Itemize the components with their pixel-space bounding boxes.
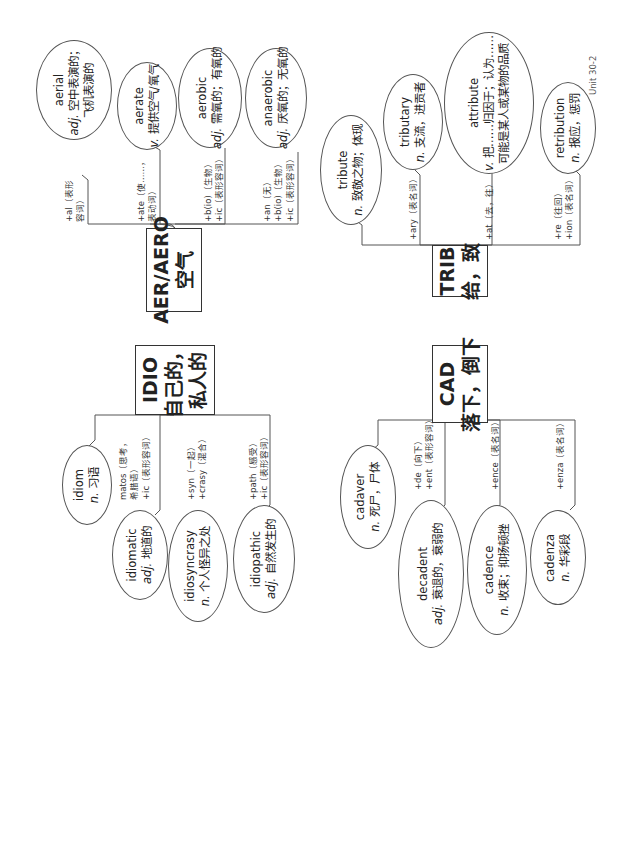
word-definition: 自然发生的 [264, 519, 278, 574]
word-ellipse-aerate: aerate v. 提供空气/氧气 [117, 62, 177, 150]
word-definition: 报应，惩罚 [568, 93, 582, 148]
affix-decadent: +de（向下） +ent（表形容词） [413, 415, 436, 490]
word-definition-line2: 飞机表演的 [81, 45, 96, 136]
word-ellipse-anaerobic: anaerobic adj. 厌氧的；无氧的 [245, 48, 307, 148]
word-term: cadaver [353, 462, 368, 532]
affix-idiosyncrasy: +syn（一起） +crasy（混合） [186, 434, 209, 500]
root-box-aer: AER/AERO 空气 [146, 228, 202, 312]
word-term: cadenza [543, 533, 558, 581]
word-definition-line2: 可能是某人或某物的品质 [496, 35, 511, 171]
part-of-speech: adj. [140, 563, 154, 584]
part-of-speech: adj. [264, 578, 278, 599]
word-ellipse-idiosyncrasy: idiosyncrasy n. 个人怪异之处 [168, 510, 228, 622]
affix-idiopathic: +path（感受） +ic（表形容词） [248, 432, 271, 500]
word-definition: 需氧的；有氧的 [210, 47, 224, 124]
word-definition: 厌氧的；无氧的 [276, 47, 290, 124]
root-box-idio: IDIO 自己的， 私人的 [135, 345, 215, 415]
part-of-speech: adj. [67, 114, 81, 135]
word-ellipse-aerobic: aerobic adj. 需氧的；有氧的 [178, 48, 242, 148]
word-ellipse-tributary: tributary n. 支流，进贡者 [383, 74, 443, 170]
root-meaning: 自己的， [163, 342, 187, 418]
part-of-speech: adj. [210, 128, 224, 149]
affix-anaerobic: +an（无） +b(io)（生物） +ic（表形容词） [262, 154, 296, 222]
word-term: idiopathic [249, 519, 264, 599]
word-ellipse-cadenza: cadenza n. 华彩段 [530, 510, 586, 605]
word-term: idiosyncrasy [183, 526, 198, 607]
word-definition: 空中表演的； [67, 45, 81, 111]
part-of-speech: v. [482, 162, 496, 172]
affix-cadenza: +enza（表名词） [555, 418, 566, 490]
root-meaning: 给，致 [460, 243, 484, 300]
word-ellipse-idiopathic: idiopathic adj. 自然发生的 [233, 505, 295, 613]
word-term: idiomatic [125, 526, 140, 584]
word-ellipse-retribution: retribution n. 报应，惩罚 [540, 82, 596, 174]
word-definition: 华彩段 [558, 534, 572, 567]
part-of-speech: adj. [431, 604, 445, 625]
root-meaning-line2: 私人的 [187, 342, 211, 418]
word-definition: 个人怪异之处 [198, 526, 212, 592]
word-term: retribution [553, 93, 568, 163]
word-term: tribute [336, 124, 351, 216]
part-of-speech: n. [558, 570, 572, 581]
word-term: decadent [416, 523, 431, 625]
word-definition: 地道的 [140, 526, 154, 559]
word-ellipse-decadent: decadent adj. 衰退的，衰弱的 [398, 500, 464, 648]
root-title: AER/AERO [150, 216, 174, 324]
root-box-cad: CAD 落下，倒下 [432, 345, 488, 423]
part-of-speech: n. [351, 205, 365, 216]
affix-attribute: +at（去，往） [484, 179, 495, 240]
word-term: cadence [482, 524, 497, 616]
part-of-speech: n. [87, 492, 101, 503]
word-term: aerobic [195, 47, 210, 149]
word-term: anaerobic [261, 47, 276, 149]
affix-aerate: +ate（使……， 表动词） [136, 157, 159, 222]
root-meaning: 空气 [174, 216, 198, 324]
unit-label: Unit 30-2 [588, 56, 598, 95]
word-definition: 提供空气/氧气 [147, 64, 161, 134]
word-term: aerial [52, 45, 67, 136]
word-definition: 习语 [87, 467, 101, 489]
word-ellipse-idiomatic: idiomatic adj. 地道的 [112, 510, 168, 600]
part-of-speech: adj. [276, 128, 290, 149]
root-title: TRIB [436, 243, 460, 300]
word-ellipse-idiom: idiom n. 习语 [62, 445, 112, 525]
root-box-trib: TRIB 给，致 [432, 245, 488, 297]
part-of-speech: n. [368, 521, 382, 532]
word-definition: 支流，进贡者 [413, 82, 427, 148]
word-definition: 死尸，尸体 [368, 462, 382, 517]
part-of-speech: n. [413, 151, 427, 162]
word-term: tributary [398, 82, 413, 163]
word-term: attribute [467, 35, 482, 171]
root-meaning: 落下，倒下 [460, 337, 484, 432]
part-of-speech: n. [568, 152, 582, 163]
word-term: idiom [72, 467, 87, 504]
word-ellipse-cadence: cadence n. 收束；抑扬顿挫 [467, 505, 527, 635]
word-definition: 致敬之物；体现 [351, 124, 365, 201]
word-ellipse-attribute: attribute v. 把……归因于；认为…… 可能是某人或某物的品质 [444, 32, 534, 174]
word-ellipse-cadaver: cadaver n. 死尸，尸体 [340, 445, 396, 549]
root-title: IDIO [139, 342, 163, 418]
affix-cadence: +ence（表名词） [490, 417, 501, 490]
affix-tributary: +ary（表名词） [408, 174, 419, 240]
affix-idiomatic: matos（思考， 希腊语） +ic（表形容词） [118, 432, 152, 500]
root-title: CAD [436, 337, 460, 432]
affix-retribution: +re（往回） +ion（表名词） [553, 175, 576, 240]
word-definition: 把……归因于；认为…… [482, 35, 496, 158]
word-definition: 收束；抑扬顿挫 [497, 524, 511, 601]
part-of-speech: n. [198, 595, 212, 606]
word-ellipse-tribute: tribute n. 致敬之物；体现 [320, 115, 382, 225]
word-definition: 衰退的，衰弱的 [431, 523, 445, 600]
word-ellipse-aerial: aerial adj. 空中表演的； 飞机表演的 [36, 40, 112, 140]
affix-aerobic: +b(io)（生物） +ic（表形容词） [203, 154, 226, 222]
word-term: aerate [132, 64, 147, 147]
part-of-speech: v. [147, 138, 161, 148]
affix-aerial: +al（表形 容词） [64, 180, 87, 222]
part-of-speech: n. [497, 605, 511, 616]
